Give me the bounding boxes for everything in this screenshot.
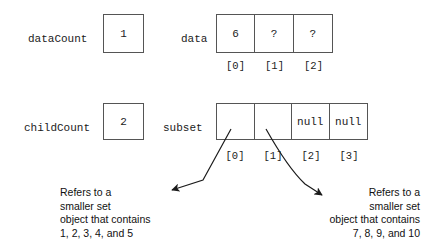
left-annotation-line: Refers to a — [60, 186, 150, 200]
left-annotation-line: smaller set — [60, 200, 150, 214]
subset-array-cell: null — [330, 104, 367, 139]
child-count-label: childCount — [24, 122, 90, 134]
subset-array-cell — [255, 104, 293, 139]
data-count-value: 1 — [120, 28, 127, 40]
subset-array-index: [1] — [254, 150, 292, 162]
data-count-box: 1 — [103, 14, 144, 53]
right-annotation-line: Refers to a — [330, 186, 420, 200]
left-annotation: Refers to a smaller set object that cont… — [60, 186, 150, 240]
left-annotation-line: 1, 2, 3, 4, and 5 — [60, 227, 150, 241]
data-array-index: [0] — [216, 60, 255, 72]
subset-array-index: [3] — [330, 150, 368, 162]
subset-array-cell: null — [292, 104, 330, 139]
subset-array-label: subset — [163, 122, 203, 134]
data-array-index: [1] — [255, 60, 294, 72]
child-count-value: 2 — [120, 116, 127, 128]
subset-array: null null — [216, 103, 368, 140]
data-array: 6 ? ? — [216, 14, 333, 53]
right-annotation-line: 7, 8, 9, and 10 — [330, 227, 420, 241]
subset-array-cell — [217, 104, 255, 139]
subset-array-index: [2] — [292, 150, 330, 162]
data-array-cell: ? — [255, 15, 293, 52]
data-array-index: [2] — [294, 60, 333, 72]
data-array-cell: ? — [294, 15, 332, 52]
left-annotation-line: object that contains — [60, 213, 150, 227]
data-array-cell: 6 — [217, 15, 255, 52]
child-count-box: 2 — [103, 103, 144, 140]
right-annotation-line: object that contains — [330, 213, 420, 227]
right-annotation-line: smaller set — [330, 200, 420, 214]
data-array-label: data — [181, 33, 207, 45]
subset-array-index: [0] — [216, 150, 254, 162]
data-count-label: dataCount — [28, 33, 87, 45]
right-annotation: Refers to a smaller set object that cont… — [330, 186, 420, 240]
set-object-diagram: dataCount 1 data 6 ? ? [0] [1] [2] child… — [0, 0, 429, 247]
